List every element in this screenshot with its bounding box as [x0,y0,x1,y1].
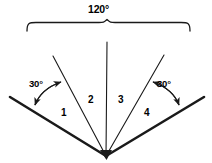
span-angle-label: 120° [88,4,109,15]
geometry-figure: 120° 30° 30° 1 2 3 4 [0,0,212,163]
region-label-1: 1 [61,108,67,118]
ray-middle-vertical [106,42,107,156]
ray-inner-right [106,55,164,156]
ray-outer-left [10,97,106,156]
region-label-4: 4 [144,108,150,118]
vertex-marker [100,150,112,160]
angle-label-right: 30° [157,79,171,89]
region-label-3: 3 [118,95,124,105]
ray-outer-right [106,97,204,156]
angle-label-left: 30° [29,79,43,89]
region-label-2: 2 [88,95,94,105]
span-brace [27,20,190,32]
